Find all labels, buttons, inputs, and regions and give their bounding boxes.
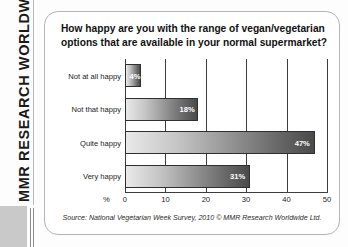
bars-area: 4% 18% 47% 31%	[125, 59, 327, 193]
x-axis-labels: % 0 10 20 30 40 50	[59, 195, 327, 209]
category-axis: Not at all happy Not that happy Quite ha…	[59, 59, 125, 193]
category-label-not-that-happy: Not that happy	[72, 105, 121, 114]
page-divider-rule	[33, 0, 34, 205]
category-label-not-at-all-happy: Not at all happy	[68, 71, 121, 80]
brand-vertical-text: MMR RESEARCH WORLDWID	[16, 0, 32, 202]
x-tick-20: 20	[202, 195, 210, 204]
page-edge-artifact	[0, 206, 27, 247]
x-tick-10: 10	[161, 195, 169, 204]
x-tick-0: 0	[123, 195, 127, 204]
bar-row-quite-happy: 47%	[125, 131, 327, 154]
page-spine-rule-right	[33, 208, 34, 247]
gridline-50	[327, 59, 328, 193]
category-label-very-happy: Very happy	[83, 172, 121, 181]
chart-title: How happy are you with the range of vega…	[61, 22, 329, 50]
x-tick-50: 50	[323, 195, 331, 204]
x-tick-30: 30	[242, 195, 250, 204]
bar-row-not-at-all-happy: 4%	[125, 64, 327, 87]
x-axis-baseline	[125, 192, 327, 193]
source-note: Source: National Vegetarian Week Survey,…	[45, 214, 339, 222]
bar-value-not-that-happy: 18%	[180, 105, 195, 114]
bar-value-very-happy: 31%	[230, 172, 245, 181]
x-axis-unit-label: %	[103, 195, 110, 204]
x-tick-40: 40	[282, 195, 290, 204]
page-spine-rule-left	[30, 208, 31, 247]
bar-value-quite-happy: 47%	[295, 138, 310, 147]
bar-row-not-that-happy: 18%	[125, 98, 327, 121]
bar-quite-happy[interactable]	[125, 131, 315, 154]
category-label-quite-happy: Quite happy	[80, 138, 121, 147]
chart-card: How happy are you with the range of vega…	[44, 11, 340, 235]
bar-row-very-happy: 31%	[125, 165, 327, 188]
chart-plot-area: Not at all happy Not that happy Quite ha…	[59, 59, 327, 193]
bar-value-not-at-all-happy: 4%	[129, 71, 140, 80]
scanned-page: MMR RESEARCH WORLDWID How happy are you …	[0, 0, 348, 247]
